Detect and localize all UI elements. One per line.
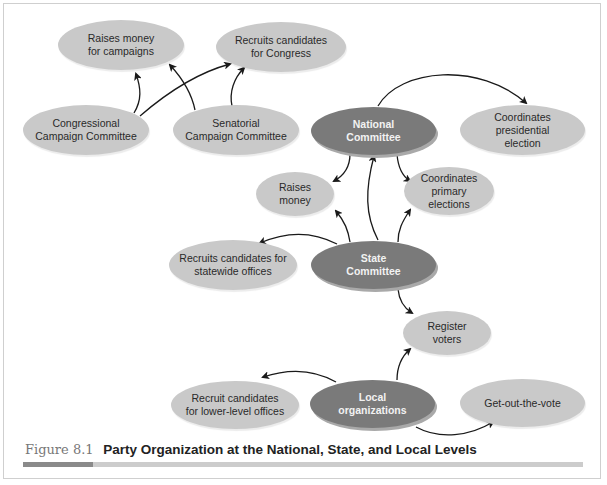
figure-number: Figure 8.1 [25, 442, 94, 457]
node-congressional-campaign-committee: Congressional Campaign Committee [23, 105, 149, 155]
caption-rule-accent [23, 462, 93, 467]
node-coordinates-presidential-election: Coordinates presidential election [460, 105, 585, 155]
figure-caption: Figure 8.1 Party Organization at the Nat… [25, 442, 477, 457]
node-recruits-candidates-for-congress: Recruits candidates for Congress [216, 22, 346, 72]
arrow-state-to-register-voters [398, 289, 412, 313]
node-recruits-candidates-statewide: Recruits candidates for statewide office… [169, 240, 297, 290]
caption-rule [93, 462, 583, 467]
node-raises-money: Raises money [256, 172, 334, 216]
node-get-out-the-vote: Get-out-the-vote [460, 379, 585, 427]
figure-title: Party Organization at the National, Stat… [103, 442, 477, 457]
arrow-state-to-national [368, 156, 378, 240]
arrow-state-to-raises-money [336, 211, 350, 242]
node-raises-money-for-campaigns: Raises money for campaigns [58, 20, 184, 70]
arrow-national-to-coord-presidential [378, 75, 526, 106]
arrow-local-to-gotv [416, 422, 493, 435]
node-state-committee: State Committee [311, 241, 436, 289]
arrow-senatorial-to-recruits-congress [231, 68, 244, 106]
arrow-state-to-recruits-statewide [260, 234, 337, 244]
node-coordinates-primary-elections: Coordinates primary elections [404, 167, 494, 215]
arrow-national-to-raises-money [334, 154, 350, 181]
node-register-voters: Register voters [403, 311, 491, 355]
node-recruit-candidates-lower-level: Recruit candidates for lower-level offic… [171, 381, 299, 429]
arrow-national-to-coord-primary [397, 154, 410, 181]
arrow-senatorial-to-raises-money-campaigns [170, 65, 195, 110]
node-senatorial-campaign-committee: Senatorial Campaign Committee [173, 105, 299, 155]
arrow-state-to-coord-primary [398, 210, 410, 242]
arrow-local-to-register-voters [397, 349, 410, 380]
node-local-organizations: Local organizations [310, 380, 435, 428]
arrow-congressional-to-raises-money-campaigns [134, 74, 140, 113]
node-national-committee: National Committee [311, 107, 436, 155]
arrow-local-to-recruit-lower [263, 371, 336, 382]
